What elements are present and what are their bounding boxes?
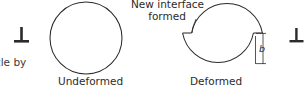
undeformed-particle-outline — [50, 2, 122, 74]
dislocation-right-icon — [290, 28, 304, 42]
dislocation-left-icon — [14, 27, 29, 43]
deformed-label: Deformed — [190, 76, 242, 88]
dislocation-shearing-figure: icle by New interface formed Undeformed … — [0, 0, 308, 93]
burgers-vector-label: b — [259, 44, 265, 55]
undeformed-label: Undeformed — [58, 76, 123, 88]
clipped-caption-text: icle by — [0, 57, 26, 69]
new-interface-label: New interface formed — [131, 0, 203, 23]
